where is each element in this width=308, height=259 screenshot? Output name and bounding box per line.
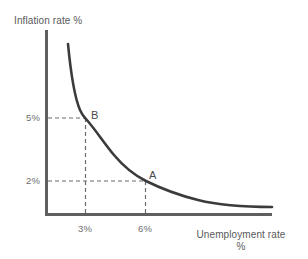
phillips-curve-chart: Inflation rate % Unemployment rate % 5% …	[0, 0, 308, 259]
x-tick-label-3pct: 3%	[71, 223, 99, 235]
x-axis-unit-label: %	[182, 240, 300, 253]
point-label-b: B	[91, 109, 98, 121]
phillips-curve-path	[68, 44, 272, 207]
y-tick-label-2pct: 2%	[18, 175, 40, 187]
chart-canvas	[0, 0, 308, 259]
y-axis-title: Inflation rate %	[14, 14, 82, 27]
x-tick-label-6pct: 6%	[131, 223, 159, 235]
y-tick-label-5pct: 5%	[18, 112, 40, 124]
point-label-a: A	[149, 169, 156, 181]
